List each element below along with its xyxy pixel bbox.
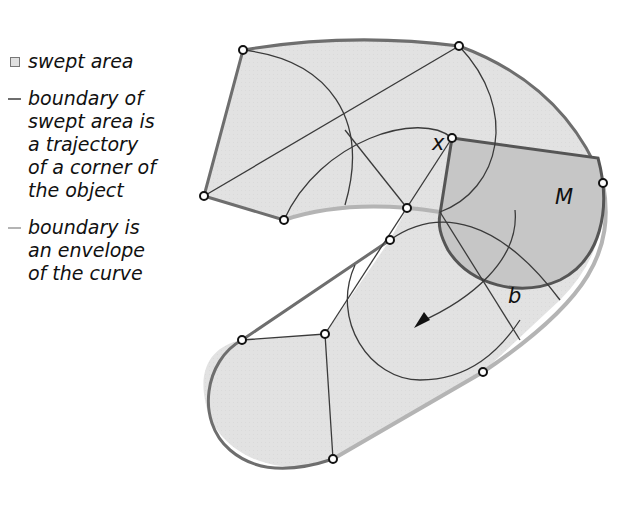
object-label-m: M bbox=[555, 185, 573, 209]
corner-point-icon bbox=[280, 216, 288, 224]
corner-point-icon bbox=[238, 336, 246, 344]
corner-point-icon bbox=[403, 204, 411, 212]
corner-point-icon bbox=[239, 46, 247, 54]
corner-point-icon bbox=[479, 368, 487, 376]
corner-point-icon bbox=[200, 192, 208, 200]
corner-point-icon bbox=[321, 330, 329, 338]
swept-area-diagram: x M b bbox=[0, 0, 636, 529]
object-m bbox=[439, 138, 603, 288]
curve-label-b: b bbox=[508, 284, 521, 308]
corner-label-x: x bbox=[431, 131, 445, 155]
corner-point-icon bbox=[448, 134, 456, 142]
corner-point-icon bbox=[599, 179, 607, 187]
corner-point-icon bbox=[329, 455, 337, 463]
corner-point-icon bbox=[455, 42, 463, 50]
corner-point-icon bbox=[386, 236, 394, 244]
